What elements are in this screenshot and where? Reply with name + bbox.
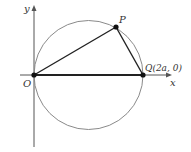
segment-op [34,27,116,75]
label-p: P [118,14,126,25]
point-p [113,24,118,29]
point-o [31,72,36,77]
label-o: O [23,78,31,89]
circle-diagram: O P Q(2a, 0) x y [0,0,191,152]
label-y-axis: y [23,3,30,14]
label-q: Q(2a, 0) [145,63,182,73]
y-axis-arrow-icon [32,5,37,11]
segment-pq [116,27,143,75]
label-x-axis: x [170,77,176,88]
point-q [140,72,145,77]
